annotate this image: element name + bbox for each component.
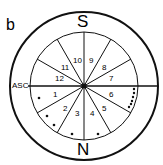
house-1: 1	[53, 90, 57, 99]
house-5: 5	[102, 104, 106, 113]
house-labels: 1 2 3 4 5 6 7 8 9 10 11 12	[0, 0, 163, 165]
house-3: 3	[75, 109, 79, 118]
house-9: 9	[89, 56, 93, 65]
house-7: 7	[109, 74, 113, 83]
house-11: 11	[61, 63, 69, 72]
house-12: 12	[55, 74, 64, 83]
house-6: 6	[109, 90, 113, 99]
house-2: 2	[63, 104, 67, 113]
house-8: 8	[102, 63, 106, 72]
house-10: 10	[73, 56, 82, 65]
house-4: 4	[90, 109, 94, 118]
